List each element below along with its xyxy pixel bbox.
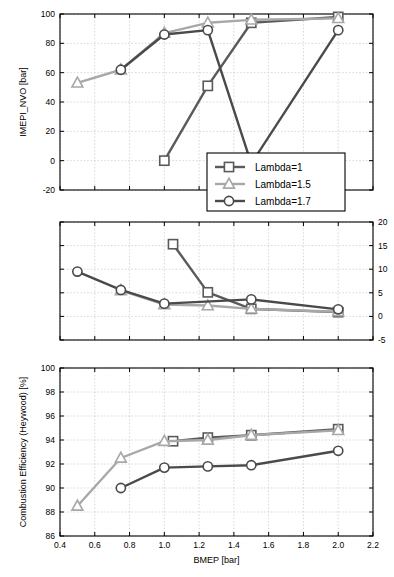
marker-square bbox=[224, 162, 233, 171]
x-tick-label: 1.8 bbox=[298, 540, 310, 550]
marker-circle bbox=[247, 295, 256, 304]
marker-circle bbox=[247, 461, 256, 470]
marker-circle bbox=[334, 446, 343, 455]
x-tick-label: 1.0 bbox=[158, 540, 170, 550]
x-tick-label: 1.2 bbox=[193, 540, 205, 550]
y-tick-label: 40 bbox=[46, 97, 56, 107]
y-tick-label: 98 bbox=[46, 387, 56, 397]
marker-circle bbox=[116, 65, 125, 74]
y-tick-label: 100 bbox=[41, 363, 55, 373]
legend: Lambda=1Lambda=1.5Lambda=1.7 bbox=[207, 153, 345, 211]
y-tick-label: -5 bbox=[378, 335, 386, 345]
x-tick-label: 0.8 bbox=[124, 540, 136, 550]
y-axis-title-top: IMEPI_NVO [bar] bbox=[18, 67, 28, 137]
y-tick-label: 90 bbox=[46, 483, 56, 493]
marker-square bbox=[203, 81, 212, 90]
marker-circle bbox=[116, 483, 125, 492]
marker-square bbox=[168, 240, 177, 249]
marker-circle bbox=[73, 267, 82, 276]
marker-circle bbox=[116, 285, 125, 294]
legend-label-2: Lambda=1.7 bbox=[255, 196, 311, 207]
marker-circle bbox=[224, 196, 233, 205]
marker-circle bbox=[334, 305, 343, 314]
x-tick-label: 0.6 bbox=[89, 540, 101, 550]
plot-area-middle bbox=[60, 222, 373, 340]
marker-circle bbox=[203, 462, 212, 471]
y-tick-label: 20 bbox=[378, 217, 388, 227]
x-tick-label: 2.0 bbox=[332, 540, 344, 550]
marker-circle bbox=[203, 26, 212, 35]
y-tick-label: 0 bbox=[50, 156, 55, 166]
y-tick-label: 5 bbox=[378, 288, 383, 298]
y-tick-label: 60 bbox=[46, 68, 56, 78]
marker-circle bbox=[160, 299, 169, 308]
chart-svg: -20020406080100IMEPI_NVO [bar]-505101520… bbox=[0, 0, 394, 577]
marker-circle bbox=[334, 26, 343, 35]
y-tick-label: 15 bbox=[378, 241, 388, 251]
x-axis-title: BMEP [bar] bbox=[194, 555, 240, 565]
y-tick-label: 20 bbox=[46, 126, 56, 136]
y-tick-label: 0 bbox=[378, 311, 383, 321]
y-tick-label: 94 bbox=[46, 435, 56, 445]
y-tick-label: 10 bbox=[378, 264, 388, 274]
panel-middle: -505101520 bbox=[60, 217, 388, 345]
marker-circle bbox=[160, 463, 169, 472]
y-tick-label: 100 bbox=[41, 9, 55, 19]
y-tick-label: 92 bbox=[46, 459, 56, 469]
marker-circle bbox=[160, 30, 169, 39]
legend-label-0: Lambda=1 bbox=[255, 162, 303, 173]
y-tick-label: 96 bbox=[46, 411, 56, 421]
y-tick-label: 80 bbox=[46, 38, 56, 48]
y-axis-title-bottom: Combustion Efficiency (Heywood) [%] bbox=[18, 377, 28, 527]
legend-label-1: Lambda=1.5 bbox=[255, 179, 311, 190]
y-tick-label: 88 bbox=[46, 507, 56, 517]
chart-figure: -20020406080100IMEPI_NVO [bar]-505101520… bbox=[0, 0, 394, 577]
x-tick-label: 2.2 bbox=[367, 540, 379, 550]
marker-square bbox=[160, 156, 169, 165]
panel-bottom: 868890929496981000.40.60.81.01.21.41.61.… bbox=[41, 363, 379, 550]
x-tick-label: 1.6 bbox=[263, 540, 275, 550]
y-tick-label: -20 bbox=[43, 185, 56, 195]
x-tick-label: 1.4 bbox=[228, 540, 240, 550]
x-tick-label: 0.4 bbox=[54, 540, 66, 550]
marker-square bbox=[203, 288, 212, 297]
